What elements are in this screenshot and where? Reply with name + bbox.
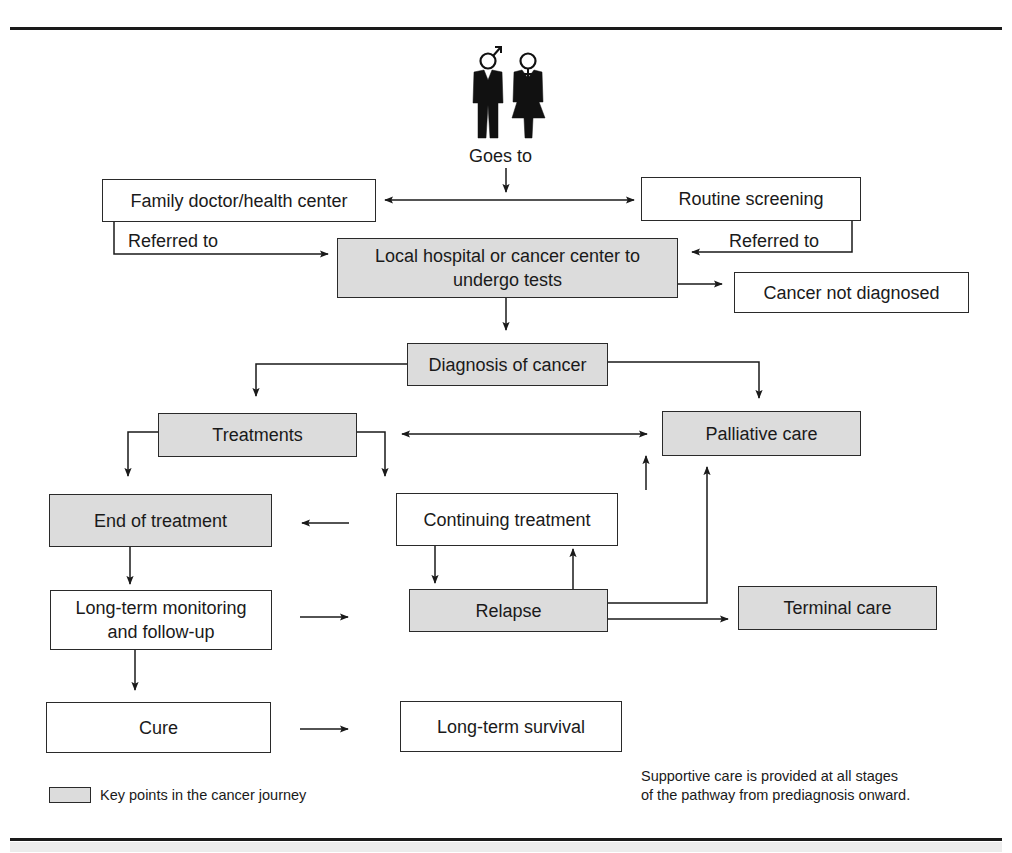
legend-label: Key points in the cancer journey <box>100 786 306 804</box>
node-not-diagnosed-label: Cancer not diagnosed <box>763 281 939 305</box>
node-palliative-label: Palliative care <box>705 422 817 446</box>
supportive-care-note: Supportive care is provided at all stage… <box>641 767 910 805</box>
arrow-diagnosis-palliative <box>608 362 759 398</box>
arrow-treatments-continuing <box>356 432 385 476</box>
legend-swatch <box>49 787 91 803</box>
arrow-treatments-end <box>128 432 158 476</box>
node-local-hospital-line2: undergo tests <box>453 268 562 292</box>
arrow-relapse-palliative <box>608 467 707 603</box>
node-treatments-label: Treatments <box>212 423 302 447</box>
node-end-of-treatment: End of treatment <box>49 494 272 547</box>
bottom-rule <box>10 838 1002 841</box>
edge-label-referred-left: Referred to <box>128 230 218 252</box>
node-terminal-label: Terminal care <box>783 596 891 620</box>
node-end-of-treatment-label: End of treatment <box>94 509 227 533</box>
node-terminal: Terminal care <box>738 586 937 630</box>
node-diagnosis: Diagnosis of cancer <box>407 343 608 386</box>
node-family-doctor: Family doctor/health center <box>102 179 376 222</box>
edge-label-referred-right: Referred to <box>729 230 819 252</box>
node-local-hospital: Local hospital or cancer center to under… <box>337 238 678 298</box>
node-local-hospital-line1: Local hospital or cancer center to <box>375 244 640 268</box>
bottom-band <box>10 842 1002 852</box>
node-routine-screening-label: Routine screening <box>678 187 823 211</box>
female-figure-icon <box>512 54 545 139</box>
node-palliative: Palliative care <box>662 411 861 456</box>
note-line1: Supportive care is provided at all stage… <box>641 767 910 786</box>
node-monitoring-line2: and follow-up <box>107 620 214 644</box>
node-continuing-treatment-label: Continuing treatment <box>423 508 590 532</box>
node-survival: Long-term survival <box>400 701 622 752</box>
node-family-doctor-label: Family doctor/health center <box>130 189 347 213</box>
node-relapse: Relapse <box>409 589 608 632</box>
node-not-diagnosed: Cancer not diagnosed <box>734 272 969 313</box>
goes-to-label: Goes to <box>469 145 532 167</box>
node-monitoring-line1: Long-term monitoring <box>75 596 246 620</box>
node-continuing-treatment: Continuing treatment <box>396 493 618 546</box>
node-survival-label: Long-term survival <box>437 715 585 739</box>
node-treatments: Treatments <box>158 413 357 457</box>
male-figure-icon <box>473 47 503 138</box>
node-cure: Cure <box>46 702 271 753</box>
node-relapse-label: Relapse <box>475 599 541 623</box>
node-monitoring: Long-term monitoring and follow-up <box>50 590 272 650</box>
arrow-diagnosis-treatments <box>256 364 407 396</box>
node-diagnosis-label: Diagnosis of cancer <box>428 353 586 377</box>
node-cure-label: Cure <box>139 716 178 740</box>
note-line2: of the pathway from prediagnosis onward. <box>641 786 910 805</box>
node-routine-screening: Routine screening <box>641 177 861 221</box>
